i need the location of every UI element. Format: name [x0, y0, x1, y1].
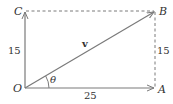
vector-label: v — [81, 38, 89, 49]
length-right: 15 — [157, 45, 170, 56]
label-b: B — [158, 5, 167, 18]
length-bottom: 25 — [84, 90, 97, 101]
label-o: O — [13, 82, 22, 95]
length-left: 15 — [8, 45, 21, 56]
angle-label: θ — [50, 74, 56, 85]
arrow-ob-vector-v — [25, 12, 154, 88]
label-c: C — [14, 5, 23, 18]
vector-diagram: C B O A 15 15 25 v θ — [0, 0, 173, 104]
angle-arc — [46, 76, 49, 88]
label-a: A — [157, 83, 166, 96]
